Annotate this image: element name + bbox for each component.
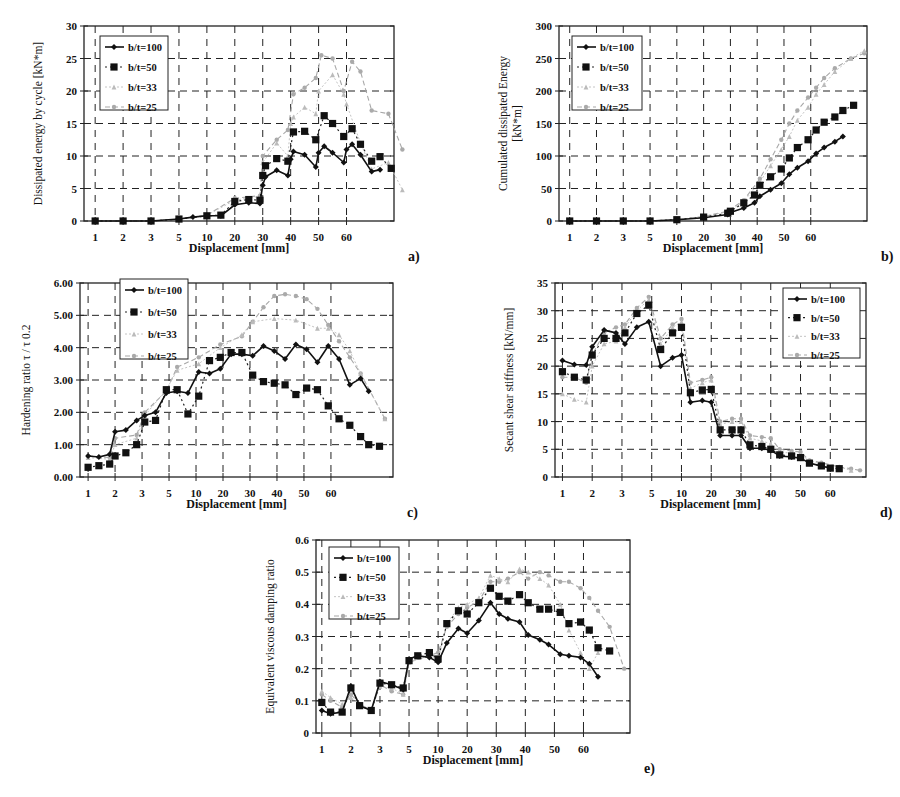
- legend-item: b/t=33: [600, 82, 629, 93]
- y-tick-label: 50: [541, 183, 553, 195]
- x-tick-label: 60: [341, 231, 353, 243]
- x-tick-label: 1: [85, 487, 91, 499]
- y-axis-label: Hardening ratio τ / τ 0.2: [20, 324, 33, 435]
- x-tick-label: 3: [377, 743, 383, 755]
- legend-item: b/t=25: [357, 611, 386, 622]
- y-tick-label: 5: [543, 443, 549, 455]
- x-axis-label: Displacement [mm]: [186, 497, 286, 511]
- x-tick-label: 50: [778, 231, 790, 243]
- panel-label: d): [880, 505, 893, 521]
- y-tick-label: 0.00: [54, 471, 74, 483]
- y-tick-label: 10: [66, 150, 78, 162]
- x-tick-label: 1: [92, 231, 98, 243]
- x-tick-label: 5: [166, 487, 172, 499]
- y-tick-label: 150: [536, 118, 553, 130]
- x-tick-label: 60: [805, 231, 817, 243]
- x-tick-label: 5: [176, 231, 182, 243]
- legend-item: b/t=25: [600, 102, 629, 113]
- y-tick-label: 30: [537, 305, 549, 317]
- x-tick-label: 50: [313, 231, 325, 243]
- y-tick-label: 0.4: [295, 598, 309, 610]
- x-tick-label: 3: [619, 487, 625, 499]
- legend-item: b/t=100: [600, 42, 634, 53]
- series-bt50: [92, 112, 395, 224]
- y-tick-label: 1.00: [54, 439, 74, 451]
- legend: b/t=100b/t=50b/t=33b/t=25: [120, 279, 188, 362]
- y-tick-label: 100: [536, 150, 553, 162]
- y-axis-label: Cumulated dissipated Energy: [497, 56, 510, 191]
- legend-item: b/t=50: [600, 62, 629, 73]
- x-axis-label: Displacement [mm]: [189, 241, 289, 255]
- x-tick-label: 60: [578, 743, 590, 755]
- x-tick-label: 1: [560, 487, 566, 499]
- legend-item: b/t=100: [148, 285, 182, 296]
- panel-label: a): [408, 249, 420, 265]
- x-tick-label: 2: [348, 743, 354, 755]
- legend-item: b/t=25: [128, 102, 157, 113]
- y-tick-label: 0.2: [295, 663, 309, 675]
- y-axis-label-unit: [kN*m]: [511, 105, 523, 141]
- y-tick-label: 2.00: [54, 406, 74, 418]
- legend-item: b/t=25: [148, 351, 177, 362]
- x-tick-label: 50: [795, 487, 807, 499]
- legend-item: b/t=50: [148, 307, 177, 318]
- x-tick-label: 5: [647, 231, 653, 243]
- y-tick-label: 0.3: [295, 631, 309, 643]
- x-tick-label: 2: [112, 487, 118, 499]
- y-tick-label: 0.6: [295, 534, 309, 546]
- y-tick-label: 20: [66, 85, 78, 97]
- y-tick-label: 25: [537, 332, 549, 344]
- legend-item: b/t=100: [811, 294, 845, 305]
- y-axis-label: Equivalent viscous damping ratio: [264, 559, 277, 714]
- x-axis-label: Displacement [mm]: [423, 753, 523, 767]
- figure-canvas: 0510152025301235102030405060Displacement…: [0, 0, 900, 797]
- y-tick-label: 15: [537, 388, 549, 400]
- y-tick-label: 300: [536, 20, 553, 32]
- legend-item: b/t=100: [128, 42, 162, 53]
- chart-d: 051015202530351235102030405060Displaceme…: [503, 277, 893, 521]
- x-tick-label: 1: [567, 231, 573, 243]
- y-tick-label: 0: [543, 471, 549, 483]
- legend-item: b/t=33: [128, 82, 157, 93]
- y-tick-label: 5.00: [54, 309, 74, 321]
- y-tick-label: 10: [537, 416, 549, 428]
- x-tick-label: 3: [148, 231, 154, 243]
- y-tick-label: 35: [537, 277, 549, 289]
- x-tick-label: 60: [825, 487, 837, 499]
- panel-label: c): [407, 505, 418, 521]
- legend-item: b/t=50: [128, 62, 157, 73]
- y-tick-label: 25: [66, 53, 78, 65]
- y-tick-label: 0: [547, 215, 553, 227]
- chart-e: 00.10.20.30.40.50.61235102030405060Displ…: [264, 534, 655, 777]
- series-bt50: [566, 102, 857, 225]
- x-axis-label: Displacement [mm]: [663, 241, 763, 255]
- x-tick-label: 3: [621, 231, 627, 243]
- x-tick-label: 1: [319, 743, 325, 755]
- legend-item: b/t=33: [357, 592, 386, 603]
- y-tick-label: 6.00: [54, 277, 74, 289]
- x-tick-label: 5: [406, 743, 412, 755]
- y-tick-label: 3.00: [54, 374, 74, 386]
- x-tick-label: 3: [139, 487, 145, 499]
- legend-item: b/t=50: [357, 572, 386, 583]
- chart-a: 0510152025301235102030405060Displacement…: [32, 20, 420, 265]
- x-tick-label: 40: [765, 487, 777, 499]
- chart-c: 0.001.002.003.004.005.006.00123510203040…: [20, 277, 418, 521]
- y-tick-label: 30: [66, 20, 78, 32]
- y-axis-label: Secant shear stiffness [kN/mm]: [503, 308, 515, 452]
- x-tick-label: 2: [120, 231, 126, 243]
- series-bt100: [92, 141, 383, 224]
- legend: b/t=100b/t=50b/t=33b/t=25: [572, 36, 642, 113]
- x-tick-label: 60: [325, 487, 337, 499]
- legend-item: b/t=33: [148, 329, 177, 340]
- legend: b/t=100b/t=50b/t=33b/t=25: [329, 547, 399, 622]
- y-tick-label: 0.5: [295, 566, 309, 578]
- y-tick-label: 0: [72, 215, 78, 227]
- x-tick-label: 5: [649, 487, 655, 499]
- legend: b/t=100b/t=50b/t=33b/t=25: [783, 288, 860, 361]
- y-axis-label: Dissipated energy by cycle [kN*m]: [32, 42, 45, 205]
- y-tick-label: 15: [66, 118, 78, 130]
- legend-item: b/t=33: [811, 331, 840, 342]
- panel-label: e): [644, 761, 655, 777]
- series-bt50: [84, 349, 383, 471]
